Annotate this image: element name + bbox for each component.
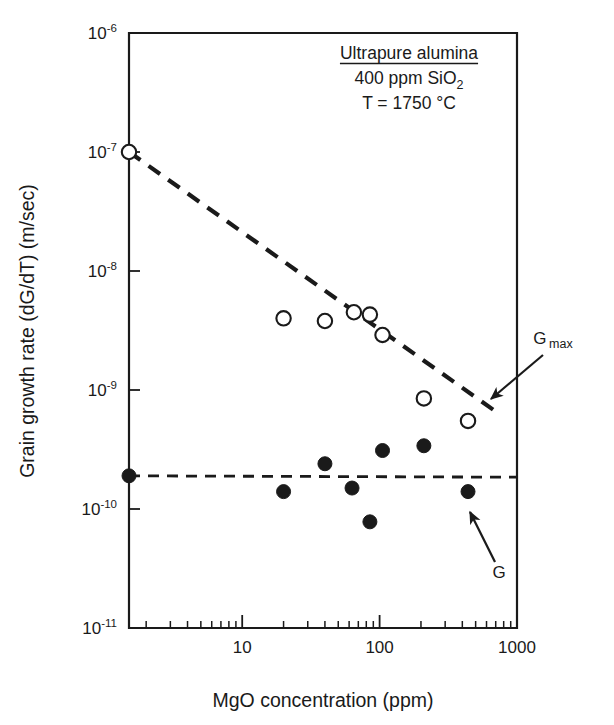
data-point-g-max [276, 311, 290, 325]
data-point-g-max [363, 307, 377, 321]
x-tick-label: 100 [365, 638, 393, 657]
annotation-block: Ultrapure alumina400 ppm SiO2T = 1750 °C [340, 43, 478, 113]
data-point-g-max [347, 305, 361, 319]
series-label-subscript: max [549, 337, 573, 351]
series-label-base: G [533, 329, 546, 348]
y-tick-label: 10-6 [88, 22, 117, 43]
data-point-g [318, 457, 332, 471]
series-callouts: GmaxG [470, 329, 573, 582]
series-label-g-max: Gmax [533, 329, 573, 351]
grain-growth-rate-chart: 10-610-710-810-910-1010-11 101001000 Gma… [0, 0, 614, 725]
data-point-g-max [122, 145, 136, 159]
annotation-line: T = 1750 °C [362, 93, 456, 113]
series-label-g: G [492, 563, 505, 582]
data-point-g-max [417, 391, 431, 405]
data-point-g [461, 485, 475, 499]
y-tick-label: 10-10 [81, 498, 117, 519]
annotation-base: 400 ppm SiO [354, 68, 456, 88]
y-tick-exponent: -9 [107, 379, 117, 391]
y-axis-title: Grain growth rate (dG/dT) (m/sec) [16, 184, 38, 478]
callout-arrow-g [470, 512, 495, 562]
y-tick-label: 10-8 [88, 260, 117, 281]
data-point-g [376, 444, 390, 458]
x-tick-label: 10 [233, 638, 252, 657]
y-axis-ticks [129, 33, 140, 628]
y-tick-mantissa: 10 [88, 262, 107, 281]
y-tick-label: 10-11 [82, 617, 117, 638]
annotation-line: Ultrapure alumina [340, 43, 478, 63]
plot-frame [129, 33, 517, 628]
x-tick-label: 1000 [498, 638, 536, 657]
data-point-g [122, 469, 136, 483]
fit-line-g-max [129, 152, 496, 411]
series-label-base: G [492, 563, 505, 582]
y-tick-mantissa: 10 [82, 619, 101, 638]
chart-figure: 10-610-710-810-910-1010-11 101001000 Gma… [0, 0, 614, 725]
data-point-g [363, 515, 377, 529]
data-point-g [417, 439, 431, 453]
data-point-g [277, 485, 291, 499]
data-point-g-max [318, 314, 332, 328]
x-axis-ticks [146, 615, 517, 628]
x-axis-tick-labels: 101001000 [233, 638, 536, 657]
y-tick-exponent: -11 [101, 617, 117, 629]
y-tick-label: 10-7 [88, 141, 117, 162]
y-tick-exponent: -8 [107, 260, 117, 272]
fit-line-g [129, 476, 517, 477]
annotation-line: 400 ppm SiO2 [354, 68, 463, 92]
data-markers [122, 145, 475, 529]
y-tick-label: 10-9 [88, 379, 117, 400]
annotation-subscript: 2 [457, 78, 464, 92]
y-tick-mantissa: 10 [81, 500, 100, 519]
y-tick-exponent: -10 [100, 498, 117, 510]
y-tick-mantissa: 10 [88, 24, 107, 43]
y-tick-mantissa: 10 [88, 143, 107, 162]
y-tick-exponent: -7 [107, 141, 117, 153]
x-axis-title: MgO concentration (ppm) [212, 689, 433, 711]
data-point-g [345, 481, 359, 495]
y-tick-mantissa: 10 [88, 381, 107, 400]
data-point-g-max [461, 414, 475, 428]
y-axis-tick-labels: 10-610-710-810-910-1010-11 [81, 22, 117, 638]
y-tick-exponent: -6 [107, 22, 117, 34]
data-point-g-max [375, 328, 389, 342]
frame-path [129, 33, 517, 628]
